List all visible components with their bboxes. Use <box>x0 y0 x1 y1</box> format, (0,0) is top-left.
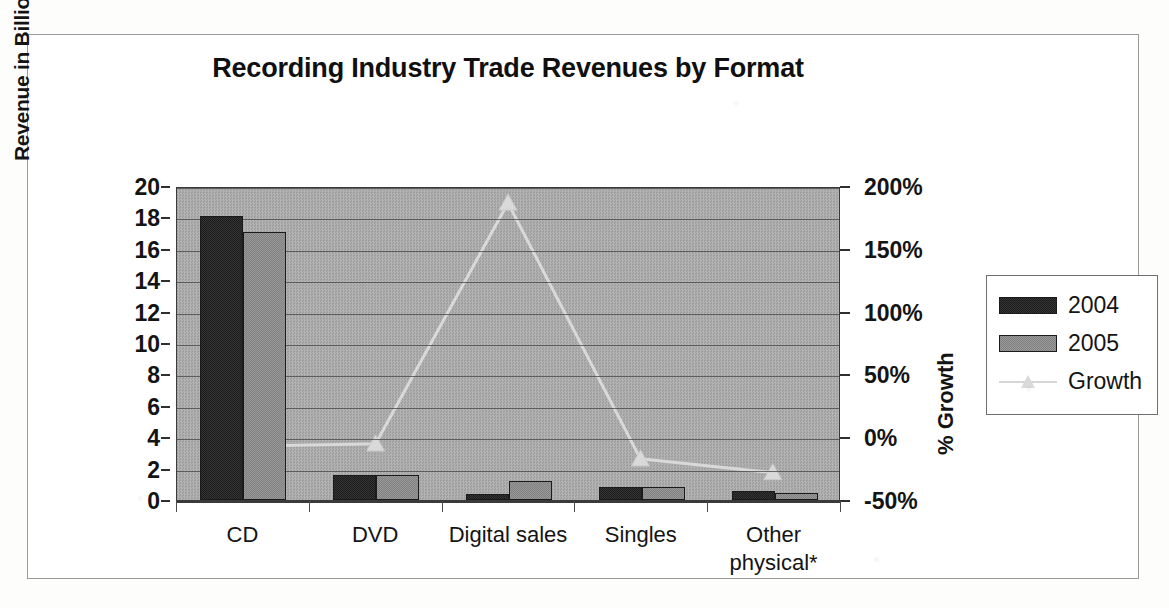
x-axis-category-label: CD <box>176 521 309 549</box>
x-axis: CDDVDDigital salesSinglesOther physical* <box>176 501 840 601</box>
y-axis-left-tick-label: 18 <box>134 207 160 230</box>
y-axis-left-tick-label: 16 <box>134 238 160 261</box>
y-axis-left-tick-mark <box>161 249 170 251</box>
y-axis-left-tick-mark <box>161 406 170 408</box>
y-axis-left-tick-label: 20 <box>134 176 160 199</box>
chart-title: Recording Industry Trade Revenues by For… <box>28 53 988 84</box>
y-axis-right-tick-mark <box>840 249 850 251</box>
y-axis-right-tick-label: 50% <box>864 364 910 387</box>
y-axis-left-tick-label: 10 <box>134 333 160 356</box>
y-axis-right: 200%150%100%50%0%-50% <box>840 175 960 515</box>
x-axis-tick-mark <box>840 501 841 512</box>
y-axis-left-tick-mark <box>161 312 170 314</box>
legend-item-growth: Growth <box>999 362 1157 400</box>
legend-swatch-2005-icon <box>999 335 1057 352</box>
y-axis-left-tick-mark <box>161 280 170 282</box>
chart-frame: Recording Industry Trade Revenues by For… <box>27 34 1139 579</box>
legend-line-growth-icon <box>999 373 1057 390</box>
growth-marker <box>631 450 649 466</box>
y-axis-right-title: % Growth <box>933 352 959 455</box>
x-axis-tick-mark <box>309 501 310 512</box>
x-axis-category-label: Other physical* <box>707 521 840 577</box>
legend-item-2005: 2005 <box>999 324 1157 362</box>
y-axis-left-tick-label: 4 <box>147 427 160 450</box>
y-axis-left-tick-label: 12 <box>134 301 160 324</box>
y-axis-left-tick-mark <box>161 374 170 376</box>
bar-2005 <box>642 487 685 500</box>
growth-line-path <box>243 203 773 473</box>
y-axis-right-tick-mark <box>840 312 850 314</box>
y-axis-right-tick-label: 100% <box>864 301 923 324</box>
y-axis-right-tick-mark <box>840 500 850 502</box>
x-axis-tick-mark <box>707 501 708 512</box>
y-axis-right-tick-mark <box>840 437 850 439</box>
gridline <box>177 219 839 220</box>
plot-area <box>176 187 840 501</box>
y-axis-left-tick-mark <box>161 437 170 439</box>
x-axis-category-label: Singles <box>574 521 707 549</box>
growth-marker <box>499 194 517 210</box>
x-axis-tick-mark <box>574 501 575 512</box>
bar-2005 <box>243 232 286 500</box>
y-axis-right-tick-label: 200% <box>864 176 923 199</box>
y-axis-right-tick-label: 150% <box>864 238 923 261</box>
gridline <box>177 188 839 189</box>
y-axis-left-tick-mark <box>161 500 170 502</box>
y-axis-right-tick-label: -50% <box>864 490 918 513</box>
x-axis-category-label: DVD <box>309 521 442 549</box>
bar-2004 <box>333 475 376 500</box>
bar-2004 <box>466 494 509 500</box>
y-axis-left-tick-label: 0 <box>147 490 160 513</box>
y-axis-left-tick-mark <box>161 217 170 219</box>
legend-label-2004: 2004 <box>1068 292 1119 319</box>
legend-swatch-2004-icon <box>999 297 1057 314</box>
bar-2005 <box>775 493 818 500</box>
bar-2005 <box>376 475 419 500</box>
y-axis-left-title: Revenue in Billions of US$ <box>10 0 40 161</box>
y-axis-left-tick-label: 14 <box>134 270 160 293</box>
y-axis-right-tick-mark <box>840 186 850 188</box>
legend-label-2005: 2005 <box>1068 330 1119 357</box>
x-axis-tick-mark <box>176 501 177 512</box>
legend-label-growth: Growth <box>1068 368 1142 395</box>
y-axis-left-tick-mark <box>161 343 170 345</box>
x-axis-tick-mark <box>442 501 443 512</box>
y-axis-right-tick-label: 0% <box>864 427 897 450</box>
y-axis-right-tick-mark <box>840 374 850 376</box>
y-axis-left-tick-mark <box>161 469 170 471</box>
bar-2004 <box>599 487 642 500</box>
chart-legend: 2004 2005 Growth <box>986 275 1158 415</box>
bar-2004 <box>200 216 243 500</box>
y-axis-left: 20181614121086420 <box>124 175 170 515</box>
x-axis-line <box>176 501 840 503</box>
x-axis-category-label: Digital sales <box>442 521 575 549</box>
bar-2004 <box>732 491 775 500</box>
legend-item-2004: 2004 <box>999 286 1157 324</box>
y-axis-left-tick-label: 8 <box>147 364 160 387</box>
y-axis-left-tick-label: 2 <box>147 458 160 481</box>
y-axis-left-tick-mark <box>161 186 170 188</box>
y-axis-left-tick-label: 6 <box>147 395 160 418</box>
bar-2005 <box>509 481 552 500</box>
